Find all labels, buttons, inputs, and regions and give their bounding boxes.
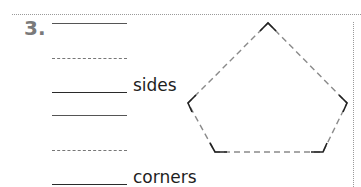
pentagon-figure: [0, 0, 361, 187]
